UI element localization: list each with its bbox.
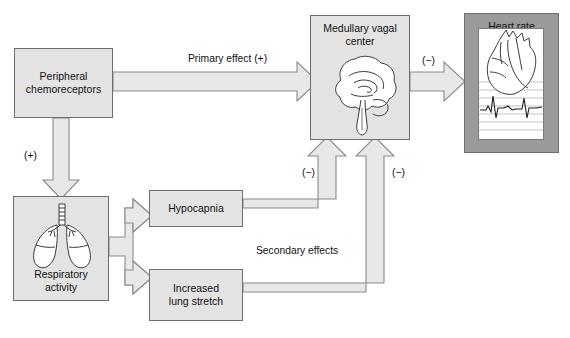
node-respiratory-activity[interactable]: Respiratory activity xyxy=(13,196,109,301)
edge-sign-lung-stretch-to-medulla: (−) xyxy=(392,167,405,178)
diagram-canvas: .ar{fill:#e8e8e8;stroke:#8a8a8a;stroke-w… xyxy=(0,0,570,338)
arrow-medulla-to-heart xyxy=(410,62,465,101)
node-label-line2: center xyxy=(323,35,397,48)
edge-label-primary-effect: Primary effect (+) xyxy=(188,53,267,64)
edge-label-secondary-effects: Secondary effects xyxy=(256,245,338,256)
arrow-chemoreceptors-to-respiratory xyxy=(43,118,79,199)
arrow-chemoreceptors-to-medulla xyxy=(113,62,318,101)
lungs-icon xyxy=(22,201,102,273)
edge-sign-hypocapnia-to-medulla: (−) xyxy=(302,167,315,178)
node-medullary-vagal-center[interactable]: Medullary vagal center xyxy=(310,15,410,140)
node-label-group: Peripheral chemoreceptors xyxy=(23,70,104,96)
node-label-line1: Hypocapnia xyxy=(168,202,223,215)
edge-sign-chemoreceptors-to-respiratory: (+) xyxy=(24,150,37,161)
node-label-line1: Increased xyxy=(169,282,223,295)
arrow-hypocapnia-to-medulla xyxy=(243,137,346,208)
heart-rate-inner-panel xyxy=(478,28,544,140)
node-label-line1: Respiratory xyxy=(34,268,88,281)
node-label-line1: Medullary vagal xyxy=(323,22,397,35)
node-hypocapnia[interactable]: Hypocapnia xyxy=(149,190,243,227)
edge-sign-medulla-to-heart: (−) xyxy=(422,55,435,66)
node-label-group: Increased lung stretch xyxy=(166,282,226,308)
node-label-group: Hypocapnia xyxy=(165,202,226,215)
brain-icon xyxy=(321,52,403,136)
node-label-group: Respiratory activity xyxy=(31,268,91,294)
node-label-line2: activity xyxy=(34,281,88,294)
node-increased-lung-stretch[interactable]: Increased lung stretch xyxy=(149,269,243,321)
node-label-group: Medullary vagal center xyxy=(320,22,400,48)
node-label-line1: Peripheral xyxy=(26,70,101,83)
node-label-line2: lung stretch xyxy=(169,295,223,308)
node-label-line2: chemoreceptors xyxy=(26,83,101,96)
node-peripheral-chemoreceptors[interactable]: Peripheral chemoreceptors xyxy=(14,48,113,118)
